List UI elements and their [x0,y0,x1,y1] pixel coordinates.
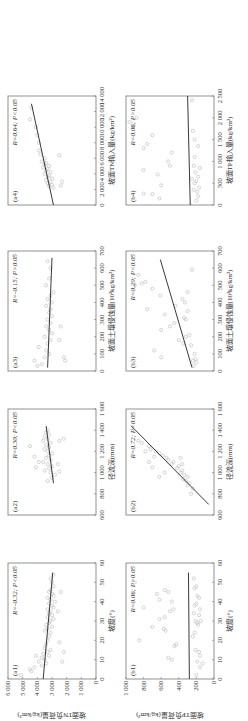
data-point [49,171,52,174]
x-tick-label: 500 [98,280,105,290]
data-point [142,147,145,150]
data-point [168,610,171,613]
data-point [45,304,48,307]
x-tick-label: 600 [98,263,105,273]
x-tick-label: 600 [216,263,223,273]
data-point [197,145,200,148]
data-point [156,173,159,176]
data-point [50,301,53,304]
data-point [181,469,184,472]
data-point [147,460,150,463]
x-tick-label: 800 [216,489,223,499]
data-point [198,608,201,611]
data-point [175,467,178,470]
x-tick-label: 0 [98,677,105,680]
scatter-panel-grid: 0102030405060坡度(°)01 0002 0003 0004 0005… [0,0,248,721]
data-point [43,448,46,451]
data-point [28,118,31,121]
data-point [172,460,175,463]
data-point [20,674,23,677]
x-tick-label: 500 [216,178,223,188]
data-point [47,277,50,280]
x-axis-label: 坡面TP输入量(kg/km²) [225,116,234,184]
data-point [195,602,198,605]
panel-label: (a2) [11,500,19,512]
data-point [43,435,46,438]
data-point [37,460,40,463]
stat-annotation: R=0.64; P<0.05 [11,99,19,147]
data-point [45,284,48,287]
x-tick-label: 4 000 [98,167,105,182]
x-tick-label: 200 [216,332,223,342]
data-point [45,325,48,328]
x-tick-label: 0 [98,369,105,372]
y-tick-label: 0 [210,681,217,684]
x-tick-label: 10 [216,656,223,663]
data-point [170,151,173,154]
plot-frame [126,563,214,679]
data-point [47,654,50,657]
data-point [40,363,43,366]
data-point [52,291,55,294]
data-point [167,590,170,593]
data-point [46,318,49,321]
data-point [198,166,201,169]
data-point [168,164,171,167]
data-point [193,604,196,607]
data-point [194,171,197,174]
data-point [201,662,204,665]
y-tick-label: 0 [92,681,99,684]
data-point [47,467,50,470]
data-point [190,177,193,180]
data-point [144,280,147,283]
data-point [197,195,200,198]
data-point [195,674,198,677]
data-point [175,643,178,646]
data-point [140,282,143,285]
x-tick-label: 100 [216,349,223,359]
data-point [46,297,49,300]
data-point [45,456,48,459]
data-point [151,625,154,628]
data-point [52,186,55,189]
data-point [159,294,162,297]
data-point [40,656,43,659]
stat-annotation: R=0.06; P>0.05 [129,99,137,147]
data-point [149,448,152,451]
panel-a1: 0102030405060坡度(°)01 0002 0003 0004 0005… [4,560,116,720]
x-tick-label: 10 000 [98,118,105,136]
data-point [140,441,143,444]
data-point [160,328,163,331]
x-axis-label: 径流深(mm) [225,443,234,480]
data-point [52,617,55,620]
data-point [28,445,31,448]
data-point [34,466,37,469]
data-point [186,475,189,478]
regression-line [46,426,53,483]
y-tick-label: 2 000 [63,681,70,696]
data-point [46,450,49,453]
x-tick-label: 1 500 [216,132,223,147]
data-point [37,149,40,152]
data-point [153,455,156,458]
data-point [193,138,196,141]
data-point [165,456,168,459]
x-tick-label: 30 [216,618,223,625]
data-point [162,627,165,630]
data-point [181,463,184,466]
data-point [39,153,42,156]
data-point [194,619,197,622]
x-tick-label: 500 [216,280,223,290]
data-point [46,463,49,466]
x-tick-label: 400 [98,298,105,308]
x-tick-label: 0 [216,369,223,372]
data-point [42,439,45,442]
data-point [142,606,145,609]
x-tick-label: 20 [216,637,223,644]
data-point [46,260,49,263]
y-tick-label: 400 [175,681,182,691]
x-tick-label: 2 500 [216,89,223,104]
x-tick-label: 0 [98,203,105,206]
panel-label: (b2) [129,500,137,512]
data-point [168,325,171,328]
